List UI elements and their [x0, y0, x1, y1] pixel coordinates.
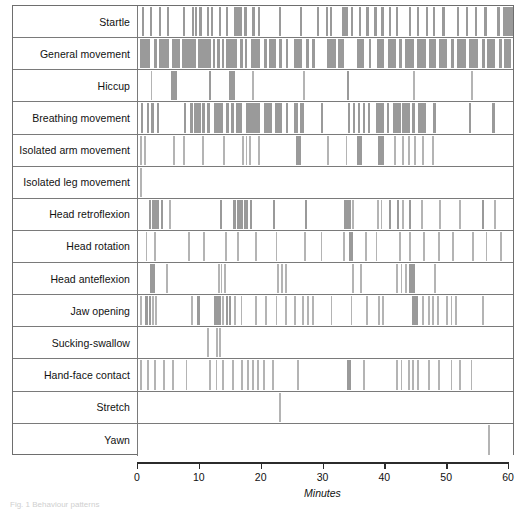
event-bar	[409, 232, 411, 261]
event-bar	[494, 200, 496, 229]
event-bar	[457, 39, 466, 68]
ethogram-grid: StartleGeneral movementHiccupBreathing m…	[12, 5, 514, 455]
event-bar	[147, 103, 149, 132]
event-bar	[377, 39, 385, 68]
behaviour-track	[138, 295, 513, 326]
behaviour-row: Jaw opening	[13, 295, 513, 327]
behaviour-row: Sucking-swallow	[13, 327, 513, 359]
event-bar	[327, 39, 336, 68]
event-bar	[305, 200, 307, 229]
event-bar	[172, 360, 174, 389]
event-bar	[423, 232, 425, 261]
event-bar	[428, 296, 430, 325]
event-bar	[306, 39, 308, 68]
event-bar	[412, 360, 414, 389]
event-bar	[506, 7, 513, 36]
event-bar	[222, 39, 224, 68]
event-bar	[417, 39, 426, 68]
event-bar	[286, 103, 288, 132]
event-bar	[263, 360, 265, 389]
event-bar	[140, 136, 142, 165]
event-bar	[459, 200, 461, 229]
event-bar	[252, 7, 254, 36]
event-bar	[249, 136, 251, 165]
event-bar	[317, 7, 319, 36]
event-bar	[409, 200, 411, 229]
event-bar	[244, 7, 247, 36]
event-bar	[433, 103, 436, 132]
event-bar	[236, 103, 242, 132]
behaviour-track	[138, 392, 513, 423]
event-bar	[155, 296, 157, 325]
event-bar	[359, 7, 361, 36]
event-bar	[244, 200, 248, 229]
event-bar	[234, 7, 242, 36]
event-bar	[219, 328, 221, 357]
event-bar	[438, 360, 440, 389]
event-bar	[183, 136, 185, 165]
behaviour-row: Head anteflexion	[13, 263, 513, 295]
axis-tick	[446, 462, 447, 469]
event-bar	[258, 7, 260, 36]
event-bar	[141, 103, 143, 132]
event-bar	[381, 7, 383, 36]
event-bar	[389, 7, 391, 36]
event-bar	[152, 200, 158, 229]
event-bar	[388, 39, 396, 68]
event-bar	[194, 103, 200, 132]
axis-tick	[137, 462, 138, 469]
event-bar	[382, 296, 384, 325]
event-bar	[413, 71, 415, 100]
behaviour-label: Head rotation	[13, 231, 138, 262]
event-bar	[294, 296, 296, 325]
event-bar	[348, 103, 350, 132]
event-bar	[358, 103, 360, 132]
event-bar	[281, 264, 283, 293]
event-bar	[402, 200, 404, 229]
event-bar	[352, 264, 354, 293]
event-bar	[451, 39, 454, 68]
event-bar	[140, 168, 142, 197]
event-bar	[276, 296, 278, 325]
event-bar	[173, 136, 175, 165]
event-bar	[344, 200, 350, 229]
event-bar	[417, 7, 419, 36]
event-bar	[202, 103, 205, 132]
event-bar	[352, 200, 354, 229]
event-bar	[198, 39, 211, 68]
event-bar	[442, 7, 444, 36]
event-bar	[378, 136, 384, 165]
event-bar	[277, 264, 279, 293]
event-bar	[357, 136, 363, 165]
event-bar	[151, 71, 153, 100]
event-bar	[246, 103, 260, 132]
event-bar	[245, 39, 247, 68]
event-bar	[225, 232, 227, 261]
event-bar	[207, 328, 209, 357]
event-bar	[213, 39, 215, 68]
event-bar	[346, 136, 348, 165]
event-bar	[438, 232, 440, 261]
behaviour-track	[138, 199, 513, 230]
behaviour-track	[138, 263, 513, 294]
event-bar	[487, 39, 495, 68]
event-bar	[302, 296, 304, 325]
behaviour-row: Stretch	[13, 392, 513, 424]
event-bar	[241, 296, 243, 325]
event-bar	[300, 103, 304, 132]
event-bar	[426, 7, 429, 36]
event-bar	[154, 232, 156, 261]
axis-tick-label: 40	[378, 471, 390, 483]
event-bar	[147, 360, 149, 389]
event-bar	[223, 136, 225, 165]
event-bar	[247, 360, 249, 389]
event-bar	[402, 103, 410, 132]
event-bar	[226, 296, 228, 325]
event-bar	[190, 103, 193, 132]
event-bar	[451, 296, 453, 325]
event-bar	[184, 103, 186, 132]
event-bar	[285, 264, 287, 293]
behaviour-track	[138, 359, 513, 390]
event-bar	[229, 71, 235, 100]
event-bar	[197, 296, 199, 325]
